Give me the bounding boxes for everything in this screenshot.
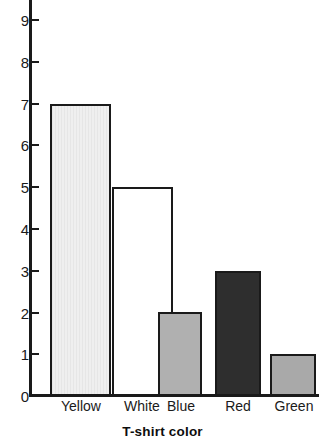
y-axis-tick bbox=[32, 19, 39, 21]
x-axis-label-yellow: Yellow bbox=[47, 399, 115, 414]
x-axis-label-red: Red bbox=[212, 399, 264, 414]
y-axis-tick bbox=[32, 312, 39, 314]
y-axis-tick bbox=[32, 61, 39, 63]
bar-blue bbox=[158, 312, 202, 396]
y-axis-tick-label: 5 bbox=[7, 180, 29, 195]
y-axis-tick bbox=[32, 270, 39, 272]
bar-red bbox=[215, 271, 261, 396]
y-axis-tick bbox=[32, 228, 39, 230]
y-axis-tick-label: 4 bbox=[7, 222, 29, 237]
bar-chart: 9876543210 YellowWhiteBlueRedGreen T-shi… bbox=[0, 0, 325, 443]
y-axis-tick bbox=[32, 395, 39, 397]
bar-yellow bbox=[50, 104, 111, 396]
y-axis-tick-label: 3 bbox=[7, 264, 29, 279]
x-axis-title: T-shirt color bbox=[0, 424, 325, 439]
y-axis-tick-label: 0 bbox=[7, 389, 29, 404]
x-axis-label-green: Green bbox=[266, 399, 322, 414]
x-axis-label-blue: Blue bbox=[155, 399, 207, 414]
y-axis-tick-label: 1 bbox=[7, 347, 29, 362]
y-axis-tick-label: 9 bbox=[7, 13, 29, 28]
y-axis-tick-label: 7 bbox=[7, 97, 29, 112]
y-axis-tick bbox=[32, 353, 39, 355]
y-axis-tick bbox=[32, 103, 39, 105]
y-axis-tick bbox=[32, 186, 39, 188]
bar-green bbox=[270, 354, 316, 396]
y-axis-tick-label: 6 bbox=[7, 138, 29, 153]
y-axis-line bbox=[29, 0, 32, 397]
y-axis-tick-label: 8 bbox=[7, 55, 29, 70]
y-axis-tick bbox=[32, 144, 39, 146]
y-axis-tick-label: 2 bbox=[7, 306, 29, 321]
